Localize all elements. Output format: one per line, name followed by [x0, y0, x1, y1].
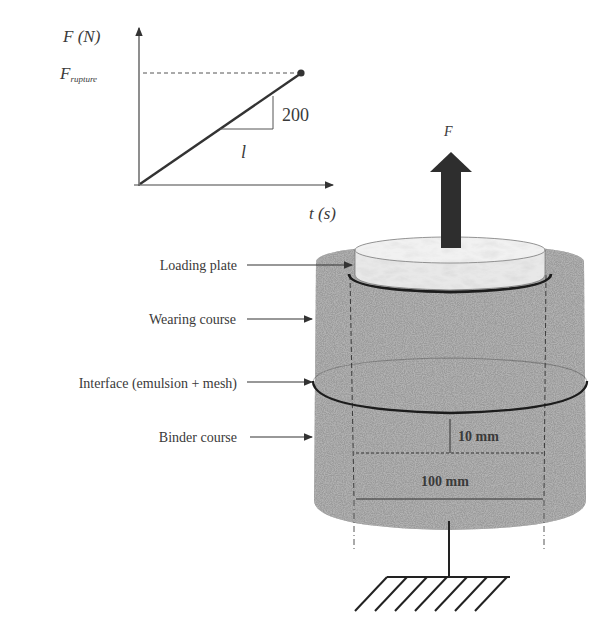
depth-dimension-label: 10 mm: [458, 429, 499, 444]
rupture-point: [297, 69, 304, 76]
slope-run-label: l: [241, 142, 246, 162]
force-label: F: [443, 124, 453, 139]
force-arrow: [430, 152, 472, 248]
fixed-support: [355, 521, 510, 611]
force-arrow-head: [430, 152, 472, 172]
label-interface: Interface (emulsion + mesh): [79, 376, 238, 392]
slope-rise-label: 200: [282, 105, 309, 125]
label-wearing-course: Wearing course: [149, 312, 236, 327]
ground-hatching: [355, 577, 507, 611]
x-axis-label: t (s): [309, 204, 336, 223]
label-binder-course: Binder course: [159, 430, 237, 445]
rupture-label: Frupture: [59, 64, 97, 84]
diagram-canvas: F (N) Frupture 200 l t (s) F Loading pla…: [0, 0, 616, 641]
y-axis-label: F (N): [62, 27, 101, 46]
force-arrow-shaft: [441, 172, 461, 248]
label-loading-plate: Loading plate: [160, 258, 237, 273]
diameter-dimension-label: 100 mm: [421, 474, 469, 489]
